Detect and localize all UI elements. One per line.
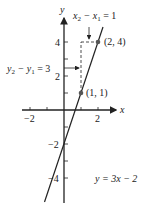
rise-annotation: y2 − y1 = 3 xyxy=(6,63,50,76)
y-tick-label: 2 xyxy=(55,71,60,82)
point-label: (1, 1) xyxy=(86,87,108,99)
point-label: (2, 4) xyxy=(104,36,126,48)
run-annotation: x2 − x1 = 1 xyxy=(72,10,116,23)
y-axis-label: y xyxy=(59,4,65,15)
y-tick-label: 4 xyxy=(55,37,60,48)
data-point xyxy=(96,40,101,45)
data-point xyxy=(79,91,84,96)
x-axis-label: x xyxy=(119,104,125,115)
x-tick-label: 2 xyxy=(95,113,100,124)
equation-label: y = 3x − 2 xyxy=(94,173,137,184)
y-tick-label: −2 xyxy=(48,139,59,150)
line-chart: x y −2 2 4 2 −2 −4 (1, 1) (2, 4) x2 − x1… xyxy=(0,0,154,206)
x-tick-label: −2 xyxy=(24,113,35,124)
